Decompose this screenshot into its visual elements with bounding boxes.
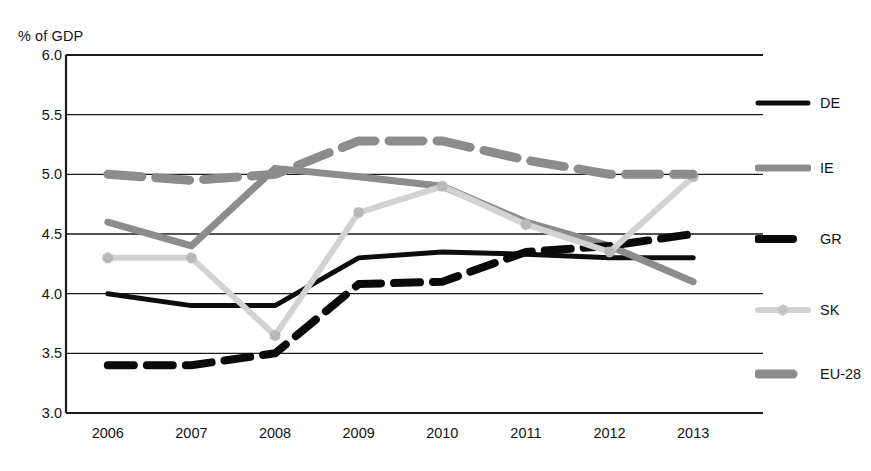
x-tick-label-2008: 2008 <box>259 425 291 441</box>
x-tick-label-2006: 2006 <box>92 425 124 441</box>
legend-item-ie[interactable]: IE <box>755 158 834 178</box>
legend-swatch-gr <box>755 231 811 247</box>
x-tick-label-2007: 2007 <box>175 425 207 441</box>
x-tick-label-2013: 2013 <box>677 425 709 441</box>
legend-label-eu-28: EU-28 <box>820 367 861 382</box>
x-tick-label-2011: 2011 <box>510 425 541 441</box>
legend-label-gr: GR <box>820 232 842 247</box>
legend-label-de: DE <box>820 96 840 111</box>
legend-swatch-ie <box>755 160 811 176</box>
x-tick-label-2012: 2012 <box>593 425 625 441</box>
plot-area <box>0 0 871 471</box>
legend-swatch-de <box>755 95 811 111</box>
series-marker-sk <box>102 252 113 263</box>
legend-item-de[interactable]: DE <box>755 93 840 113</box>
x-tick-label-2010: 2010 <box>426 425 458 441</box>
legend-item-eu-28[interactable]: EU-28 <box>755 364 861 384</box>
legend-item-gr[interactable]: GR <box>755 229 842 249</box>
x-tick-label-2009: 2009 <box>343 425 375 441</box>
legend-item-sk[interactable]: SK <box>755 300 839 320</box>
legend-swatch-sk <box>755 302 811 318</box>
legend-label-sk: SK <box>820 303 839 318</box>
legend-swatch-eu-28 <box>755 366 811 382</box>
line-chart: % of GDP 6.05.55.04.54.03.53.0 200620072… <box>0 0 871 471</box>
legend-label-ie: IE <box>820 161 834 176</box>
